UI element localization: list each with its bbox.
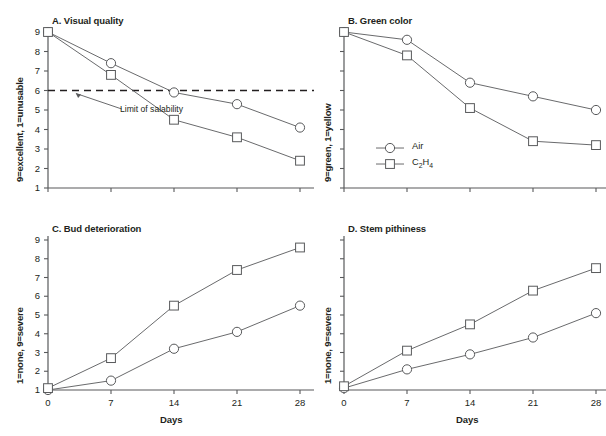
- square-marker: [466, 320, 475, 329]
- square-marker: [592, 264, 601, 273]
- x-tick-label: 7: [397, 397, 417, 408]
- x-tick-label: 0: [334, 397, 354, 408]
- chart-panel-d: 07142128D. Stem pithiness1=none, 9=sever…: [0, 0, 606, 436]
- square-marker: [403, 346, 412, 355]
- x-tick-label: 21: [523, 397, 543, 408]
- square-marker: [529, 286, 538, 295]
- figure-four-panel-chart: 123456789Limit of salabilityA. Visual qu…: [0, 0, 606, 436]
- y-axis-label-d: 1=none, 9=severe: [322, 307, 333, 384]
- x-tick-label: 14: [460, 397, 480, 408]
- panel-title-d: D. Stem pithiness: [348, 223, 426, 234]
- x-axis-label-d: Days: [456, 414, 478, 425]
- circle-marker: [402, 365, 411, 374]
- x-tick-label: 28: [586, 397, 606, 408]
- circle-marker: [465, 350, 474, 359]
- circle-marker: [591, 309, 600, 318]
- plot-area-d: [0, 0, 606, 436]
- square-marker: [340, 382, 349, 391]
- circle-marker: [528, 333, 537, 342]
